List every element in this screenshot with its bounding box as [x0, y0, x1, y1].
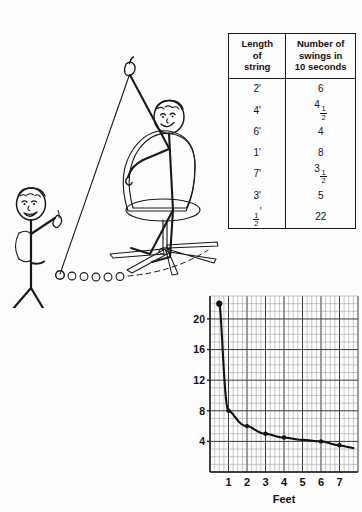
- cell-swings: 5: [286, 185, 355, 205]
- cell-length: 12': [229, 205, 286, 228]
- x-tick-label: 2: [244, 476, 250, 488]
- header-length-line2: of: [230, 50, 284, 62]
- y-tick-label: 12: [193, 374, 205, 386]
- curve-path: [219, 304, 354, 448]
- data-point-marker: [226, 409, 230, 413]
- y-tick-label: 20: [193, 313, 205, 325]
- pendulum-bob-and-trail: [56, 271, 124, 281]
- header-swings-line3: 10 seconds: [287, 61, 354, 73]
- cell-swings: 412: [286, 99, 355, 122]
- cell-swings: 8: [286, 142, 355, 162]
- y-tick-label: 8: [199, 405, 205, 417]
- table-row: 7' 312: [229, 162, 355, 185]
- seated-figure-body: [126, 75, 173, 262]
- data-point-marker: [245, 424, 249, 428]
- table-row: 6' 4: [229, 122, 355, 142]
- data-point-marker: [319, 439, 323, 443]
- cell-swings: 4: [286, 122, 355, 142]
- cell-length: 7': [229, 162, 286, 185]
- cell-swings-fraction: 12: [320, 169, 326, 185]
- cell-length: 1': [229, 142, 286, 162]
- data-point-marker: [216, 301, 222, 307]
- office-swivel-chair: [110, 131, 218, 275]
- pointing-hand: [53, 211, 62, 228]
- cell-swings-whole: 3: [314, 163, 320, 174]
- cell-swings-whole: 4: [314, 99, 320, 110]
- cell-length: 6': [229, 122, 286, 142]
- cell-swings: 22: [286, 205, 355, 228]
- cell-swings: 312: [286, 162, 355, 185]
- swings-vs-feet-graph: 481216201234567 Feet: [186, 292, 362, 507]
- gripping-hand: [125, 57, 136, 76]
- pendulum-string: [60, 76, 129, 274]
- data-point-marker: [337, 443, 341, 447]
- standing-figure-body: [12, 218, 55, 308]
- table-row: 4' 412: [229, 99, 355, 122]
- table-row: 2' 6: [229, 78, 355, 99]
- header-length-of-string: Length of string: [229, 34, 286, 78]
- header-swings-line2: swings in: [287, 50, 354, 62]
- standing-figure-head: [17, 188, 46, 220]
- table-row: 12' 22: [229, 205, 355, 228]
- bob-motion-trail: [68, 272, 124, 281]
- standing-stick-figure-pointing: [12, 188, 62, 308]
- cell-length-prime: ': [260, 206, 262, 217]
- cell-swings-fraction: 12: [320, 105, 326, 121]
- y-tick-label: 16: [193, 343, 205, 355]
- pendulum-illustration: [0, 18, 225, 308]
- x-tick-label: 3: [262, 476, 268, 488]
- cell-length: 2': [229, 78, 286, 99]
- cell-length: 4': [229, 99, 286, 122]
- x-tick-label: 6: [318, 476, 324, 488]
- table-row: 1' 8: [229, 142, 355, 162]
- worksheet-page: Length of string Number of swings in 10 …: [0, 0, 362, 512]
- header-number-of-swings: Number of swings in 10 seconds: [286, 34, 355, 78]
- x-tick-label: 5: [299, 476, 305, 488]
- cell-length-fraction: 12: [253, 212, 259, 228]
- table-row: 3' 5: [229, 185, 355, 205]
- cell-swings: 6: [286, 78, 355, 99]
- header-swings-line1: Number of: [287, 38, 354, 50]
- graph-tick-labels: 481216201234567: [193, 313, 342, 488]
- header-length-line3: string: [230, 61, 284, 73]
- y-tick-label: 4: [199, 435, 205, 447]
- data-point-marker: [263, 432, 267, 436]
- cell-length: 3': [229, 185, 286, 205]
- data-point-marker: [282, 435, 286, 439]
- x-tick-label: 4: [281, 476, 288, 488]
- x-axis-label: Feet: [273, 493, 296, 505]
- swing-data-table: Length of string Number of swings in 10 …: [228, 33, 356, 229]
- x-tick-label: 7: [336, 476, 342, 488]
- header-length-line1: Length: [230, 38, 284, 50]
- table-header-row: Length of string Number of swings in 10 …: [229, 34, 355, 78]
- x-tick-label: 1: [225, 476, 231, 488]
